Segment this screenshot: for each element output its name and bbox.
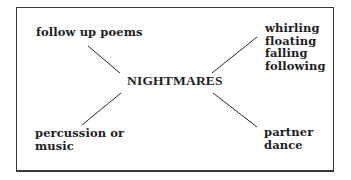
branch-top-right: whirling floating falling following <box>265 22 326 72</box>
branch-bottom-right: partner dance <box>264 126 313 151</box>
branch-bottom-right-line: dance <box>264 139 313 152</box>
connector-top-right <box>212 37 257 73</box>
branch-top-right-line: following <box>265 60 326 73</box>
connector-bottom-left <box>82 93 121 125</box>
connector-top-left <box>88 46 120 73</box>
branch-bottom-left: percussion or music <box>35 127 124 152</box>
branch-bottom-left-line: music <box>35 140 124 153</box>
branch-top-right-line: whirling <box>265 22 326 35</box>
branch-top-right-line: falling <box>265 47 326 60</box>
branch-top-left-line: follow up poems <box>36 26 143 39</box>
branch-bottom-right-line: partner <box>264 126 313 139</box>
connector-bottom-right <box>213 93 257 127</box>
branch-bottom-left-line: percussion or <box>35 127 124 140</box>
central-node: NIGHTMARES <box>127 75 223 88</box>
branch-top-left: follow up poems <box>36 26 143 39</box>
